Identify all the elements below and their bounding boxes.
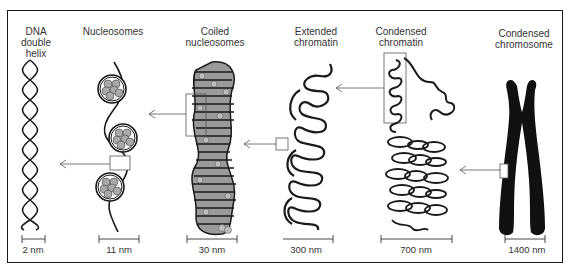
scale-label-300nm: 300 nm (284, 244, 328, 255)
scale-bars (22, 235, 545, 243)
scale-label-11nm: 11 nm (99, 244, 139, 255)
nucleosomes-icon (96, 62, 137, 232)
arrow-icon (244, 140, 276, 148)
condensed-chromosome-icon (500, 81, 544, 234)
scale-label-700nm: 700 nm (392, 244, 440, 255)
arrow-icon (60, 160, 110, 168)
scale-label-30nm: 30 nm (190, 244, 234, 255)
arrow-icon (336, 84, 384, 92)
extended-chromatin-icon (276, 64, 332, 230)
arrow-icon (149, 110, 186, 118)
arrow-icon (460, 166, 500, 174)
dna-double-helix-icon (22, 60, 39, 230)
diagram-artwork (0, 0, 573, 275)
coiled-nucleosomes-icon (186, 62, 236, 235)
condensed-chromatin-icon (384, 53, 454, 230)
scale-label-2nm: 2 nm (18, 244, 48, 255)
scale-label-1400nm: 1400 nm (502, 244, 552, 255)
